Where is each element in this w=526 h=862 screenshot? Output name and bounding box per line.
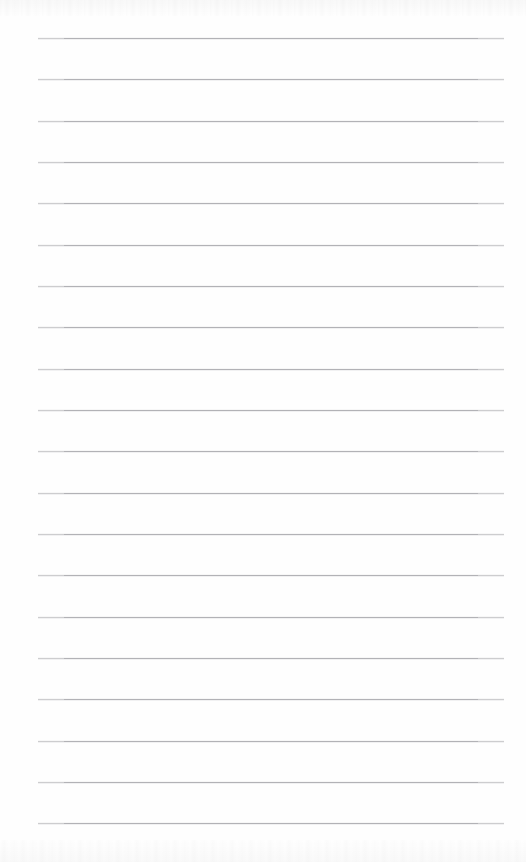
rule-line	[38, 741, 504, 742]
rule-line	[38, 79, 504, 80]
rule-line	[38, 451, 504, 452]
rule-line	[38, 534, 504, 535]
rule-line	[38, 327, 504, 328]
rule-line	[38, 617, 504, 618]
rule-line	[38, 369, 504, 370]
rule-line	[38, 162, 504, 163]
rule-line	[38, 575, 504, 576]
rule-line	[38, 410, 504, 411]
rule-line	[38, 38, 504, 39]
rule-line	[38, 699, 504, 700]
rule-line	[38, 493, 504, 494]
rule-line	[38, 203, 504, 204]
rule-line	[38, 286, 504, 287]
rule-line	[38, 658, 504, 659]
rule-line	[38, 121, 504, 122]
rule-line	[38, 782, 504, 783]
rule-line	[38, 823, 504, 824]
writing-area[interactable]	[0, 0, 526, 862]
notepad-page	[0, 0, 526, 862]
rule-line	[38, 245, 504, 246]
